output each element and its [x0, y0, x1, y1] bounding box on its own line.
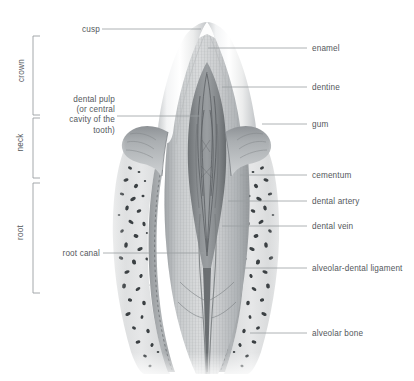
- label-alveolar-dental-ligament: alveolar-dental ligament: [312, 264, 403, 274]
- bracket-label-crown: crown: [17, 51, 26, 91]
- bracket-label-neck: neck: [16, 126, 25, 160]
- label-alveolar-bone: alveolar bone: [312, 329, 363, 339]
- label-dental-pulp: dental pulp (or central cavity of the to…: [42, 95, 115, 136]
- label-cusp: cusp: [42, 25, 100, 35]
- leader-lines: [0, 0, 414, 381]
- label-dental-artery: dental artery: [312, 197, 359, 207]
- label-dental-vein: dental vein: [312, 222, 353, 232]
- label-root-canal: root canal: [42, 249, 100, 259]
- label-dentine: dentine: [312, 83, 340, 93]
- bracket-label-root: root: [16, 217, 25, 249]
- label-enamel: enamel: [312, 44, 340, 54]
- label-gum: gum: [312, 120, 328, 130]
- tooth-diagram-figure: crown neck root cusp dental pulp (or cen…: [0, 0, 414, 381]
- label-cementum: cementum: [312, 171, 351, 181]
